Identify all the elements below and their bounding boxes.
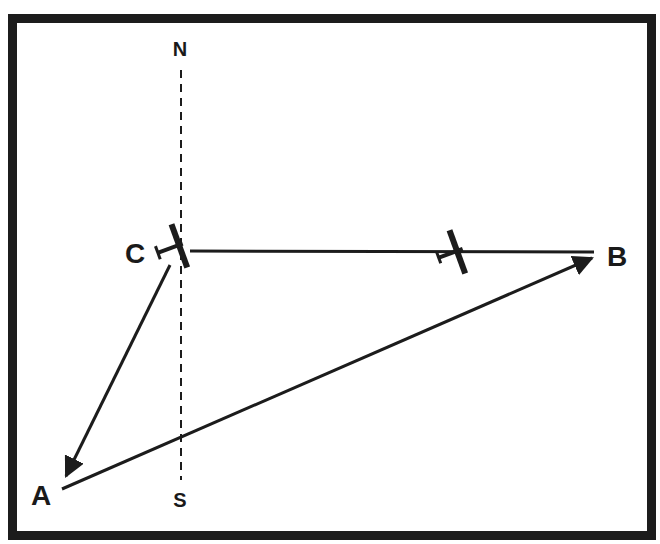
label-south: S xyxy=(173,489,186,511)
arrow-a-to-b xyxy=(62,258,592,489)
label-north: N xyxy=(173,38,187,60)
label-point-a: A xyxy=(31,480,51,511)
arrow-c-to-a xyxy=(66,265,170,476)
label-point-b: B xyxy=(607,241,627,272)
line-c-to-b xyxy=(190,251,594,252)
wind-triangle-diagram: N S C B A xyxy=(0,0,660,544)
label-point-c: C xyxy=(125,238,145,269)
airplane-icon-on-course xyxy=(430,228,471,280)
